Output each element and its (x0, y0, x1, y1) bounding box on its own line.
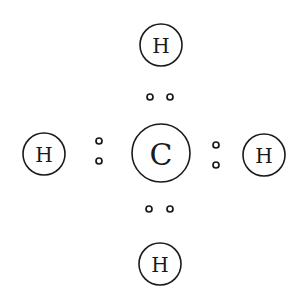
electron-dot (146, 206, 152, 212)
electron-pair-bottom (146, 206, 173, 212)
electron-pair-left (96, 138, 102, 164)
hydrogen-atom-label: H (152, 34, 169, 58)
carbon-atom-label: C (150, 137, 173, 172)
hydrogen-atom-left: H (23, 133, 65, 175)
electron-dot (213, 142, 219, 148)
electron-dot (213, 162, 219, 168)
hydrogen-atom-label: H (255, 144, 272, 168)
electron-dot (167, 94, 173, 100)
lewis-structure-diagram: C H H H H (0, 0, 295, 302)
hydrogen-atom-bottom: H (139, 243, 181, 285)
carbon-atom: C (132, 124, 190, 182)
hydrogen-atom-label: H (151, 253, 168, 277)
electron-dot (167, 206, 173, 212)
hydrogen-atom-top: H (140, 24, 182, 66)
electron-dot (96, 138, 102, 144)
hydrogen-atom-right: H (243, 134, 285, 176)
electron-pair-right (213, 142, 219, 168)
electron-dot (147, 94, 153, 100)
electron-pair-top (147, 94, 173, 100)
electron-dot (96, 158, 102, 164)
hydrogen-atom-label: H (35, 143, 52, 167)
